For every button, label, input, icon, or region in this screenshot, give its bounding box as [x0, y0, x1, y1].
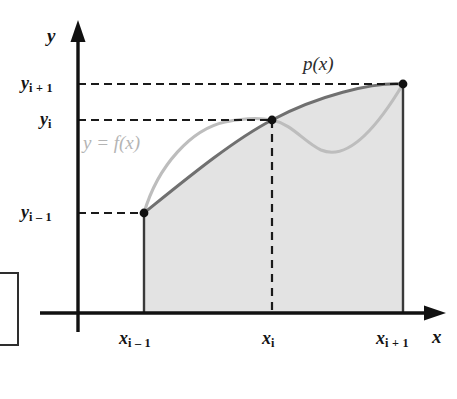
- x-tick-sub: i + 1: [385, 336, 409, 350]
- x-tick-label-x-i-minus-1: xi – 1: [119, 329, 151, 349]
- x-axis-arrowhead: [424, 306, 446, 321]
- page-border-fragment: [0, 272, 19, 346]
- y-tick-label-y-i-plus-1: yi + 1: [21, 74, 53, 94]
- x-tick-base: x: [376, 328, 385, 348]
- x-tick-label-x-i-plus-1: xi + 1: [376, 329, 409, 349]
- curve-label-y-equals-f-of-x: y = f(x): [83, 133, 140, 152]
- y-tick-base: y: [21, 202, 29, 222]
- node-dot-mid: [268, 116, 277, 125]
- y-tick-label-y-i: yi: [40, 110, 52, 130]
- x-tick-sub: i: [271, 336, 275, 350]
- y-tick-label-y-i-minus-1: yi – 1: [21, 203, 52, 223]
- node-dot-right: [399, 80, 408, 89]
- x-axis-label: x: [432, 327, 442, 346]
- x-tick-base: x: [119, 328, 128, 348]
- x-tick-base: x: [262, 328, 271, 348]
- y-tick-base: y: [40, 109, 48, 129]
- y-tick-sub: i: [48, 117, 52, 131]
- node-dot-left: [140, 209, 149, 218]
- y-tick-base: y: [21, 73, 29, 93]
- x-tick-sub: i – 1: [128, 336, 151, 350]
- curve-label-p-of-x: p(x): [303, 54, 334, 73]
- y-axis-label: y: [47, 26, 55, 45]
- y-tick-sub: i + 1: [29, 81, 53, 95]
- y-tick-sub: i – 1: [29, 210, 52, 224]
- x-tick-label-x-i: xi: [262, 329, 275, 349]
- y-axis-arrowhead: [71, 20, 86, 42]
